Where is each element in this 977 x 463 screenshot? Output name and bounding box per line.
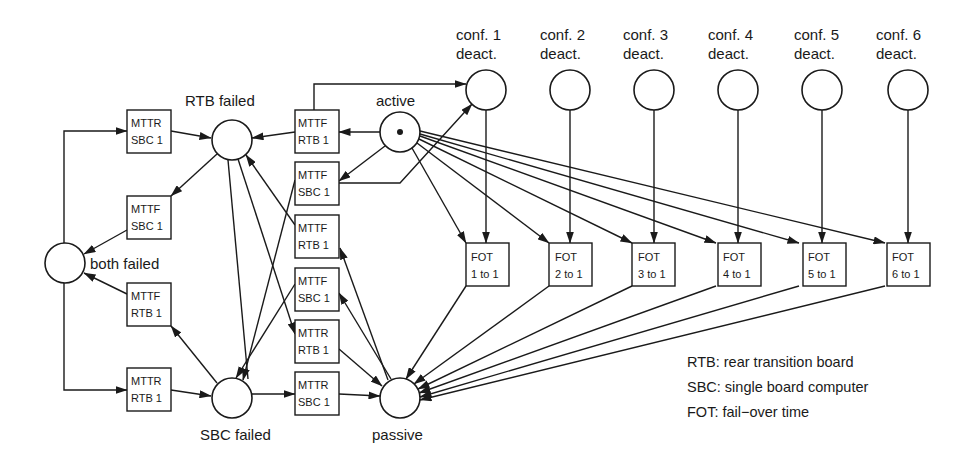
arc-cross-1	[228, 160, 248, 379]
transition-mid-mttf-sbc1-a[interactable]: MTTF SBC 1	[295, 162, 339, 205]
transition-label-line2: 3 to 1	[638, 268, 666, 280]
transition-fot-3to1[interactable]: FOT 3 to 1	[632, 243, 675, 286]
place-circle[interactable]	[380, 378, 420, 418]
arc-active-to-fot1	[412, 148, 466, 243]
transition-label-line1: FOT	[638, 251, 660, 263]
place-label-line1: conf. 5	[794, 26, 839, 43]
transition-label-line1: MTTF	[298, 275, 328, 287]
transition-label-line2: 1 to 1	[471, 268, 499, 280]
transition-label-line2: SBC 1	[298, 292, 330, 304]
arc-mttf-sbc-to-sbc-failed	[243, 180, 295, 380]
arc-both-to-mttr-sbc	[64, 131, 127, 243]
arc-mttr-rtb-to-sbc-failed	[171, 390, 211, 396]
place-label-line2: deact.	[794, 45, 835, 62]
arc-mttr-sbc-to-rtb-failed	[171, 131, 211, 138]
place-label-line2: deact.	[623, 45, 664, 62]
place-label-line1: conf. 4	[708, 26, 753, 43]
transition-label-line1: FOT	[471, 251, 493, 263]
place-label-line2: deact.	[876, 45, 917, 62]
transition-label-line1: MTTR	[131, 375, 162, 387]
place-label-line1: conf. 6	[876, 26, 921, 43]
transition-label-line2: RTB 1	[298, 134, 329, 146]
transition-label-line2: 5 to 1	[808, 268, 836, 280]
transition-label-line2: RTB 1	[131, 307, 162, 319]
place-label: RTB failed	[185, 92, 255, 109]
transition-mid-mttf-sbc1-b[interactable]: MTTF SBC 1	[295, 268, 339, 311]
place-label-line2: deact.	[456, 45, 497, 62]
transition-fot-4to1[interactable]: FOT 4 to 1	[718, 243, 761, 286]
transition-fot-1to1[interactable]: FOT 1 to 1	[466, 243, 509, 286]
place-circle[interactable]	[888, 70, 928, 110]
place-conf6-deact[interactable]: conf. 6 deact.	[876, 26, 928, 110]
place-circle[interactable]	[634, 70, 674, 110]
arc-both-to-mttr-rtb	[64, 283, 127, 390]
transition-label-line2: 6 to 1	[892, 268, 920, 280]
arc-mttf-sbc-to-sbc-failed-2	[236, 284, 295, 378]
transition-mid-mttf-rtb1-b[interactable]: MTTF RTB 1	[295, 215, 339, 258]
petri-net-diagram: both failed RTB failed SBC failed active…	[0, 0, 977, 463]
place-circle[interactable]	[802, 70, 842, 110]
transition-fot-2to1[interactable]: FOT 2 to 1	[549, 243, 592, 286]
arc-mttf-rtb-to-both	[84, 273, 127, 294]
place-circle[interactable]	[45, 243, 85, 283]
transition-label-line1: MTTF	[298, 222, 328, 234]
place-active[interactable]: active	[376, 92, 420, 152]
place-sbc-failed[interactable]: SBC failed	[200, 378, 271, 443]
arc-mttf-rtb-to-rtb-failed	[252, 132, 295, 138]
arc-passive-to-mttf-sbc	[339, 293, 391, 379]
place-label-line1: conf. 3	[623, 26, 668, 43]
token-dot-icon	[397, 129, 403, 135]
place-circle[interactable]	[212, 120, 252, 160]
place-label: both failed	[90, 255, 159, 272]
transition-label-line1: FOT	[808, 251, 830, 263]
arc-rtb-failed-to-mttf-sbc	[171, 154, 217, 196]
place-conf3-deact[interactable]: conf. 3 deact.	[623, 26, 674, 110]
place-rtb-failed[interactable]: RTB failed	[185, 92, 255, 160]
place-conf5-deact[interactable]: conf. 5 deact.	[794, 26, 842, 110]
place-label-line2: deact.	[708, 45, 749, 62]
arc-fot1-to-passive	[406, 286, 466, 379]
transition-fot-5to1[interactable]: FOT 5 to 1	[803, 243, 846, 286]
arc-active-to-fot6	[420, 131, 885, 243]
transition-left-mttr-rtb1[interactable]: MTTR RTB 1	[127, 368, 171, 411]
transition-label-line2: SBC 1	[131, 134, 163, 146]
transition-label-line1: FOT	[892, 251, 914, 263]
transition-left-mttf-sbc1[interactable]: MTTF SBC 1	[127, 196, 171, 239]
transition-label-line1: MTTF	[131, 290, 161, 302]
arc-mttf-sbc-to-both	[84, 230, 127, 254]
place-label: passive	[372, 426, 423, 443]
place-circle[interactable]	[466, 70, 506, 110]
place-conf1-deact[interactable]: conf. 1 deact.	[456, 26, 506, 110]
arc-mttr-sbc-to-passive	[339, 394, 380, 396]
arc-active-to-fot4	[420, 136, 716, 243]
transition-label-line1: FOT	[555, 251, 577, 263]
transition-fot-6to1[interactable]: FOT 6 to 1	[887, 243, 930, 286]
place-label-line1: conf. 1	[456, 26, 501, 43]
transition-mid-mttr-rtb1[interactable]: MTTR RTB 1	[295, 320, 339, 363]
place-circle[interactable]	[718, 70, 758, 110]
place-label: active	[376, 92, 415, 109]
place-conf4-deact[interactable]: conf. 4 deact.	[708, 26, 758, 110]
transition-left-mttf-rtb1[interactable]: MTTF RTB 1	[127, 283, 171, 326]
transition-label-line2: RTB 1	[298, 344, 329, 356]
transition-label-line1: MTTF	[298, 117, 328, 129]
transition-label-line2: RTB 1	[131, 392, 162, 404]
transition-label-line2: SBC 1	[131, 220, 163, 232]
transition-label-line2: 4 to 1	[723, 268, 751, 280]
transition-left-mttr-sbc1[interactable]: MTTR SBC 1	[127, 110, 171, 153]
place-circle[interactable]	[212, 378, 252, 418]
transition-label-line2: RTB 1	[298, 239, 329, 251]
place-label: SBC failed	[200, 426, 271, 443]
arc-sbc-failed-to-mttf-rtb	[171, 326, 217, 383]
transition-mid-mttr-sbc1[interactable]: MTTR SBC 1	[295, 372, 339, 415]
legend-fot: FOT: fail−over time	[687, 404, 809, 420]
place-circle[interactable]	[550, 70, 590, 110]
place-passive[interactable]: passive	[372, 378, 423, 443]
legend-sbc: SBC: single board computer	[687, 379, 869, 395]
transition-mid-mttf-rtb1-a[interactable]: MTTF RTB 1	[295, 110, 339, 153]
arc-passive-to-mttf-rtb	[340, 248, 388, 380]
place-both-failed[interactable]: both failed	[45, 243, 159, 283]
place-conf2-deact[interactable]: conf. 2 deact.	[540, 26, 590, 110]
transition-label-line2: SBC 1	[298, 396, 330, 408]
transition-label-line2: SBC 1	[298, 186, 330, 198]
